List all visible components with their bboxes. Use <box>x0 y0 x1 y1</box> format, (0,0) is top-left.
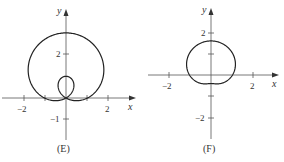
x-axis-label: x <box>127 101 133 112</box>
y-axis-label: y <box>56 5 62 16</box>
x-tick-label: −2 <box>162 81 172 91</box>
x-tick-label: 2 <box>250 81 255 91</box>
x-tick-label: −2 <box>17 104 27 114</box>
y-tick-label: −2 <box>195 113 205 123</box>
y-tick-label: −1 <box>50 114 60 124</box>
y-tick-label: 2 <box>56 49 61 59</box>
caption-f: (F) <box>203 143 215 155</box>
panel-f: −2 2 2 −2 x y (F) <box>148 4 279 155</box>
y-axis-arrow-icon <box>64 9 69 16</box>
y-tick-label: 2 <box>201 28 206 38</box>
caption-e: (E) <box>57 143 70 155</box>
y-axis-label: y <box>201 4 207 15</box>
panel-e: −2 2 2 −1 x y (E) <box>2 5 136 155</box>
x-axis-arrow-icon <box>272 73 279 78</box>
x-axis-label: x <box>271 78 277 89</box>
y-axis-arrow-icon <box>209 8 214 15</box>
polar-graphs-figure: −2 2 2 −1 x y (E) −2 2 2 −2 x y (F) <box>0 0 284 162</box>
x-tick-label: 2 <box>105 104 110 114</box>
x-axis-arrow-icon <box>129 96 136 101</box>
